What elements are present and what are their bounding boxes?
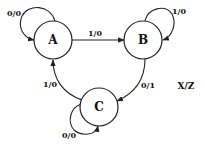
transition-label-b-to-b: 1/0 [172,6,186,16]
state-a: A [34,21,72,59]
state-label-b: B [138,33,148,47]
state-label-c: C [94,100,104,114]
state-diagram: 0/0 1/0 1/0 0/1 1/0 0/0 A B C X/Z [0,0,205,150]
state-label-a: A [47,33,58,47]
transition-label-c-to-c: 0/0 [62,130,76,140]
transition-label-b-to-c: 0/1 [141,80,155,90]
transition-label-a-to-b: 1/0 [88,28,102,38]
state-c: C [80,88,118,126]
transition-label-a-to-a: 0/0 [7,8,21,18]
state-b: B [124,21,162,59]
transition-c-to-a [53,60,82,100]
transition-label-c-to-a: 1/0 [43,79,57,89]
io-legend: X/Z [178,81,195,91]
